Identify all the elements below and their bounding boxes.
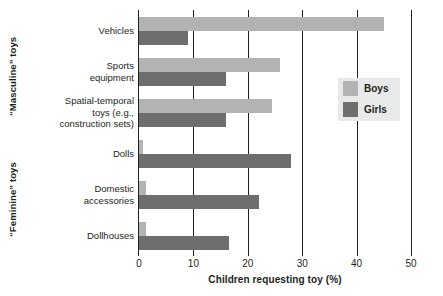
legend-label-girls: Girls — [364, 104, 387, 115]
category-label-line: Vehicles — [38, 25, 134, 37]
x-tick-label: 50 — [405, 258, 416, 269]
category-label-line: toys (e.g., — [38, 107, 134, 119]
bar-boys-0 — [139, 17, 384, 31]
x-tick-label: 30 — [297, 258, 308, 269]
category-label-line: Spatial-temporal — [38, 95, 134, 107]
boys-swatch-icon — [343, 81, 358, 96]
y-axis-line — [138, 10, 139, 256]
bar-girls-1 — [139, 72, 226, 86]
category-label-dollhouses: Dollhouses — [38, 230, 134, 242]
category-label-line: Domestic — [38, 183, 134, 195]
legend-item-boys: Boys — [343, 81, 388, 96]
category-label-domestic-accessories: Domestic accessories — [38, 183, 134, 206]
bar-girls-4 — [139, 195, 259, 209]
x-axis-title: Children requesting toy (%) — [139, 274, 411, 285]
bar-girls-0 — [139, 31, 188, 45]
gridline — [193, 10, 194, 256]
category-label-dolls: Dolls — [38, 148, 134, 160]
bar-boys-2 — [139, 99, 272, 113]
group-label-feminine-text: “Feminine” toys — [7, 162, 18, 237]
x-tick-label: 20 — [242, 258, 253, 269]
bar-boys-3 — [139, 140, 143, 154]
bar-boys-1 — [139, 58, 280, 72]
bar-girls-5 — [139, 236, 229, 250]
plot-area — [139, 10, 411, 256]
bar-boys-5 — [139, 222, 146, 236]
group-label-masculine-text: “Masculine” toys — [7, 37, 18, 116]
gridline — [302, 10, 303, 256]
gridline — [248, 10, 249, 256]
category-label-spatial-temporal-toys: Spatial-temporal toys (e.g., constructio… — [38, 95, 134, 130]
legend-label-boys: Boys — [364, 83, 388, 94]
gridline — [357, 10, 358, 256]
legend: Boys Girls — [338, 78, 400, 121]
x-axis-tick-labels: 01020304050 — [139, 258, 429, 272]
bar-chart: “Masculine” toys “Feminine” toys Vehicle… — [0, 0, 443, 296]
group-label-feminine: “Feminine” toys — [0, 143, 24, 256]
bar-girls-2 — [139, 113, 226, 127]
category-label-line: construction sets) — [38, 118, 134, 130]
group-label-masculine: “Masculine” toys — [0, 10, 24, 143]
x-tick-label: 0 — [136, 258, 142, 269]
category-label-line: Dollhouses — [38, 230, 134, 242]
category-label-line: accessories — [38, 195, 134, 207]
x-tick-label: 40 — [351, 258, 362, 269]
category-label-vehicles: Vehicles — [38, 25, 134, 37]
category-label-sports-equipment: Sports equipment — [38, 60, 134, 83]
category-label-line: Sports — [38, 60, 134, 72]
girls-swatch-icon — [343, 102, 358, 117]
category-label-line: Dolls — [38, 148, 134, 160]
bar-girls-3 — [139, 154, 291, 168]
category-label-line: equipment — [38, 72, 134, 84]
x-tick-label: 10 — [188, 258, 199, 269]
bar-boys-4 — [139, 181, 146, 195]
gridline — [411, 10, 412, 256]
category-axis-labels: Vehicles Sports equipment Spatial-tempor… — [34, 0, 134, 296]
legend-item-girls: Girls — [343, 102, 387, 117]
